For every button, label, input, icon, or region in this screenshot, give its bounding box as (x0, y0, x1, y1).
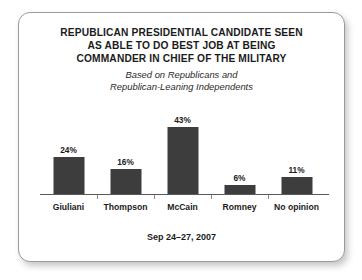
chart-title-line-1: REPUBLICAN PRESIDENTIAL CANDIDATE SEEN (19, 26, 344, 39)
chart-subtitle-line-1: Based on Republicans and (19, 69, 344, 82)
chart-title-line-3: COMMANDER IN CHIEF OF THE MILITARY (19, 52, 344, 65)
chart-title-block: REPUBLICAN PRESIDENTIAL CANDIDATE SEEN A… (19, 26, 344, 94)
bar-group-no-opinion: 11% (268, 116, 325, 194)
bar-giuliani (53, 157, 84, 194)
bar-value-label: 11% (268, 166, 325, 175)
bar-romney (224, 185, 255, 194)
bar-group-thompson: 16% (97, 116, 154, 194)
x-axis-label-thompson: Thompson (95, 202, 157, 212)
x-axis-label-mccain: McCain (152, 202, 214, 212)
bar-group-romney: 6% (211, 116, 268, 194)
bar-no-opinion (281, 177, 312, 194)
bar-value-label: 24% (40, 146, 97, 155)
plot-area: 24% 16% 43% 6% 11% (40, 116, 325, 194)
bar-value-label: 43% (154, 116, 211, 125)
x-axis-tick (154, 195, 155, 199)
x-axis-label-giuliani: Giuliani (38, 202, 100, 212)
bar-value-label: 16% (97, 158, 154, 167)
bar-group-giuliani: 24% (40, 116, 97, 194)
bar-thompson (110, 169, 141, 194)
x-axis-category-labels: Giuliani Thompson McCain Romney No opini… (40, 202, 325, 216)
x-axis-label-romney: Romney (209, 202, 271, 212)
x-axis-tick (268, 195, 269, 199)
chart-title-line-2: AS ABLE TO DO BEST JOB AT BEING (19, 39, 344, 52)
chart-footer-date: Sep 24–27, 2007 (19, 232, 344, 242)
x-axis-line (40, 194, 329, 195)
x-axis-label-no-opinion: No opinion (266, 202, 328, 212)
chart-subtitle-line-2: Republican-Leaning Independents (19, 81, 344, 94)
bar-mccain (167, 127, 198, 194)
bar-value-label: 6% (211, 174, 268, 183)
x-axis-tick (97, 195, 98, 199)
chart-card: REPUBLICAN PRESIDENTIAL CANDIDATE SEEN A… (18, 12, 345, 262)
bar-group-mccain: 43% (154, 116, 211, 194)
x-axis-tick (211, 195, 212, 199)
